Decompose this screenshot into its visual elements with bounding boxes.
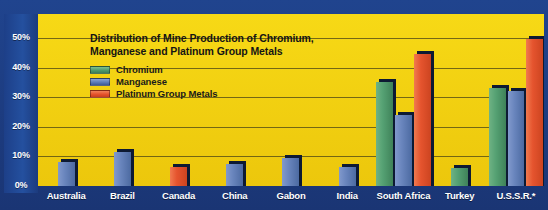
bar — [114, 152, 131, 186]
bar — [489, 88, 506, 186]
x-axis-label: South Africa — [375, 186, 431, 206]
x-axis-label: Australia — [38, 186, 94, 206]
x-axis-spacer — [4, 186, 38, 206]
bar — [339, 167, 356, 186]
x-axis-label: Turkey — [432, 186, 488, 206]
plot-area: Distribution of Mine Production of Chrom… — [38, 14, 544, 186]
bar-group — [432, 14, 488, 186]
y-axis-tick-label: 40% — [4, 62, 38, 72]
bar-group — [319, 14, 375, 186]
bar-group — [94, 14, 150, 186]
x-axis-label: Canada — [150, 186, 206, 206]
bar-groups — [38, 14, 544, 186]
bar — [526, 39, 543, 186]
y-axis-tick-label: 20% — [4, 121, 38, 131]
bar — [170, 167, 187, 186]
bar-group — [38, 14, 94, 186]
bar-group — [207, 14, 263, 186]
y-axis-tick-label: 50% — [4, 32, 38, 42]
y-axis-band: 50%40%30%20%10%0% — [4, 14, 38, 193]
bar — [414, 54, 431, 186]
chart-container: Distribution of Mine Production of Chrom… — [0, 0, 548, 210]
bar — [451, 168, 468, 186]
x-axis-label: China — [207, 186, 263, 206]
x-axis-labels: AustraliaBrazilCanadaChinaGabonIndiaSout… — [4, 186, 544, 206]
x-axis-label: India — [319, 186, 375, 206]
bar — [395, 115, 412, 186]
x-axis-label: U.S.S.R.* — [488, 186, 544, 206]
bar — [58, 162, 75, 186]
bar — [282, 158, 299, 186]
bar-group — [150, 14, 206, 186]
bar — [376, 82, 393, 186]
x-axis-label: Gabon — [263, 186, 319, 206]
y-axis-tick-label: 10% — [4, 150, 38, 160]
y-axis-tick-label: 30% — [4, 91, 38, 101]
bar-group — [375, 14, 431, 186]
bar — [508, 91, 525, 186]
x-axis-label: Brazil — [94, 186, 150, 206]
bar — [226, 164, 243, 186]
bar-group — [488, 14, 544, 186]
bar-group — [263, 14, 319, 186]
